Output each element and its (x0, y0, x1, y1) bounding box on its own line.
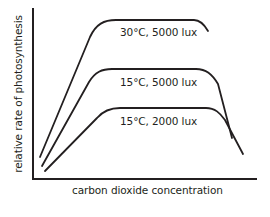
series-label-15c-5000lux: 15°C, 5000 lux (120, 76, 197, 88)
x-axis-label: carbon dioxide concentration (72, 184, 223, 196)
curve-30c-5000lux (40, 20, 208, 157)
series-label-30c-5000lux: 30°C, 5000 lux (120, 26, 197, 38)
series-label-15c-2000lux: 15°C, 2000 lux (120, 115, 197, 127)
photosynthesis-chart: 30°C, 5000 lux 15°C, 5000 lux 15°C, 2000… (0, 0, 270, 217)
y-axis-label: relative rate of photosynthesis (12, 15, 24, 173)
